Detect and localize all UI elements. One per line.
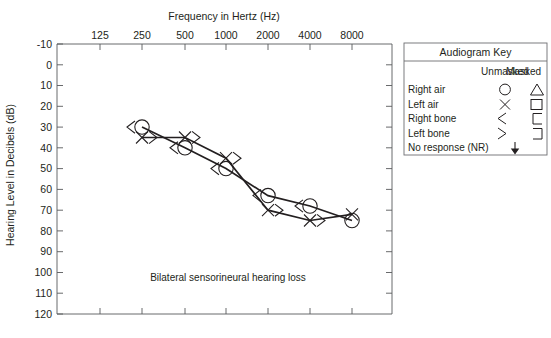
legend-column-masked: Masked — [506, 66, 541, 77]
x-tick-label: 125 — [91, 29, 109, 41]
y-axis-ticks-right — [386, 65, 392, 293]
plot-caption: Bilateral sensorineural hearing loss — [150, 272, 306, 283]
audiogram-svg: Frequency in Hertz (Hz) Hearing Level in… — [0, 0, 551, 338]
y-tick-label: 110 — [35, 287, 52, 299]
left-bone-symbols — [149, 131, 325, 226]
legend-title: Audiogram Key — [440, 46, 513, 58]
x-tick-label: 500 — [176, 29, 194, 41]
x-tick-labels: 125 250 500 1000 2000 4000 8000 — [91, 29, 364, 41]
y-tick-label: 120 — [34, 308, 52, 320]
legend-label-right-bone: Right bone — [408, 113, 457, 124]
x-tick-label: 1000 — [214, 29, 238, 41]
legend-label-right-air: Right air — [408, 84, 446, 95]
y-tick-label: 30 — [40, 121, 52, 133]
y-tick-label: 60 — [40, 183, 52, 195]
y-tick-label: 100 — [34, 266, 52, 278]
y-tick-label: 0 — [46, 59, 52, 71]
audiogram-key-legend: Audiogram Key Unmasked Masked Right air … — [404, 43, 547, 155]
y-tick-label: 80 — [40, 225, 52, 237]
x-axis-title: Frequency in Hertz (Hz) — [168, 10, 279, 22]
audiogram-figure: Frequency in Hertz (Hz) Hearing Level in… — [0, 0, 551, 338]
x-tick-label: 250 — [133, 29, 151, 41]
marker-x — [262, 204, 274, 216]
y-tick-label: 10 — [40, 79, 52, 91]
x-tick-label: 8000 — [340, 29, 364, 41]
x-axis-ticks — [100, 44, 352, 50]
y-tick-label: 40 — [40, 142, 52, 154]
y-axis-title: Hearing Level in Decibels (dB) — [4, 104, 16, 246]
y-tick-label: 50 — [40, 162, 52, 174]
legend-label-no-response: No response (NR) — [408, 142, 489, 153]
y-axis-ticks — [57, 44, 63, 314]
y-tick-label: 70 — [40, 204, 52, 216]
series-lines — [142, 127, 352, 220]
legend-label-left-bone: Left bone — [408, 128, 450, 139]
right-air-line — [142, 127, 352, 220]
y-tick-label: 20 — [40, 100, 52, 112]
y-tick-label: 90 — [40, 245, 52, 257]
x-tick-label: 2000 — [256, 29, 280, 41]
left-air-markers — [136, 132, 358, 227]
x-axis-ticks-bottom — [100, 308, 352, 314]
x-tick-label: 4000 — [298, 29, 322, 41]
y-tick-label: -10 — [37, 38, 52, 50]
y-tick-labels: -10 0 10 20 30 40 50 60 70 80 90 100 110… — [34, 38, 52, 320]
legend-label-left-air: Left air — [408, 99, 439, 110]
